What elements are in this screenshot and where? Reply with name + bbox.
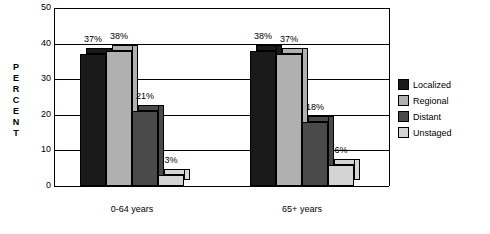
y-axis-title-letter: R (8, 84, 24, 95)
bar-regional-0 (106, 51, 132, 186)
plot-right-border (389, 8, 390, 186)
y-axis-title: P E R C E N T (8, 62, 24, 139)
legend-item-distant[interactable]: Distant (398, 110, 484, 123)
bar-front-face (132, 111, 158, 186)
bar-value-label: 18% (296, 102, 334, 112)
bar-value-label: 6% (322, 145, 360, 155)
x-axis-line (54, 186, 389, 187)
legend-swatch-icon (398, 95, 409, 106)
bar-front-face (328, 165, 354, 186)
legend-swatch-icon (398, 111, 409, 122)
plot-area: 5040302010037%38%21%3%0-64 years38%37%18… (34, 8, 389, 194)
y-tick-label: 40 (34, 38, 51, 48)
bar-side-face (354, 159, 360, 180)
bar-value-label: 37% (270, 34, 308, 44)
y-tick-label: 50 (34, 2, 51, 12)
y-axis-title-letter: C (8, 95, 24, 106)
y-tick-label: 30 (34, 73, 51, 83)
legend-item-unstaged[interactable]: Unstaged (398, 126, 484, 139)
y-axis-title-letter: N (8, 117, 24, 128)
y-axis-title-letter: E (8, 73, 24, 84)
bar-chart: P E R C E N T 5040302010037%38%21%3%0-64… (0, 0, 490, 234)
x-category-label: 0-64 years (60, 204, 204, 214)
bar-front-face (158, 175, 184, 186)
y-gridline (54, 8, 389, 9)
bar-unstaged-0 (158, 175, 184, 186)
plot-inner: 5040302010037%38%21%3%0-64 years38%37%18… (34, 8, 389, 194)
bar-localized-1 (250, 51, 276, 186)
bar-unstaged-1 (328, 165, 354, 186)
bar-value-label: 21% (126, 91, 164, 101)
y-tick-label: 20 (34, 109, 51, 119)
bar-front-face (276, 54, 302, 186)
y-axis-line (54, 8, 55, 186)
bar-front-face (80, 54, 106, 186)
x-category-label: 65+ years (230, 204, 374, 214)
bar-distant-0 (132, 111, 158, 186)
bar-localized-0 (80, 54, 106, 186)
bar-value-label: 3% (152, 155, 190, 165)
bar-regional-1 (276, 54, 302, 186)
bar-front-face (250, 51, 276, 186)
bar-side-face (184, 169, 190, 180)
bar-front-face (106, 51, 132, 186)
y-tick-label: 10 (34, 144, 51, 154)
y-axis-title-letter: T (8, 128, 24, 139)
legend-item-label: Unstaged (413, 128, 452, 138)
y-tick-label: 0 (34, 180, 51, 190)
legend-item-label: Regional (413, 96, 449, 106)
y-axis-title-letter: P (8, 62, 24, 73)
legend-swatch-icon (398, 127, 409, 138)
bar-value-label: 38% (100, 31, 138, 41)
y-axis-title-letter: E (8, 106, 24, 117)
legend-item-localized[interactable]: Localized (398, 78, 484, 91)
legend-item-label: Localized (413, 80, 451, 90)
legend-swatch-icon (398, 79, 409, 90)
legend-item-regional[interactable]: Regional (398, 94, 484, 107)
chart-legend: LocalizedRegionalDistantUnstaged (398, 78, 484, 142)
legend-item-label: Distant (413, 112, 441, 122)
